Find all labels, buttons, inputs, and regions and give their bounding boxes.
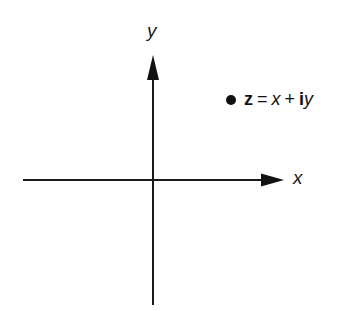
complex-plane-diagram: [0, 0, 361, 311]
equals-sign: =: [253, 89, 272, 109]
complex-number-expression: z=x+iy: [244, 90, 313, 108]
plus-sign: +: [281, 89, 300, 109]
filled-dot-icon: [226, 95, 236, 105]
x-axis-arrowhead: [261, 174, 284, 187]
x-axis-label: x: [293, 168, 303, 187]
real-part-x: x: [272, 89, 281, 109]
variable-z: z: [244, 89, 253, 109]
y-axis-label: y: [147, 21, 157, 40]
point-annotation: z=x+iy: [226, 90, 313, 108]
imaginary-part-y: y: [304, 89, 313, 109]
figure-canvas: y x z=x+iy: [0, 0, 361, 311]
y-axis-arrowhead: [147, 55, 159, 80]
